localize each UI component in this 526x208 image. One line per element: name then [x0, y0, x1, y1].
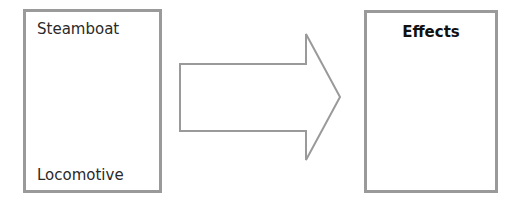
effects-box: Effects — [364, 10, 498, 193]
effects-title: Effects — [367, 23, 495, 41]
